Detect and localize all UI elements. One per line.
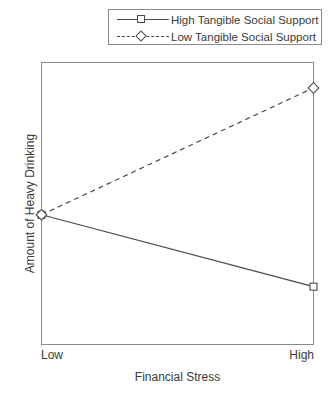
y-axis-title: Amount of Heavy Drinking xyxy=(20,62,40,345)
data-point-marker-diamond xyxy=(308,83,319,94)
data-point-marker-square xyxy=(310,283,317,290)
series-line-0 xyxy=(42,215,314,287)
x-tick-label-high: High xyxy=(234,348,314,362)
x-tick-label-low: Low xyxy=(41,348,63,362)
series-layer xyxy=(36,83,319,291)
interaction-line-chart: High Tangible Social Support Low Tangibl… xyxy=(0,0,331,393)
plot-frame xyxy=(42,63,314,345)
x-axis-title: Financial Stress xyxy=(41,370,314,384)
plot-area xyxy=(0,0,331,393)
series-line-1 xyxy=(42,88,314,215)
